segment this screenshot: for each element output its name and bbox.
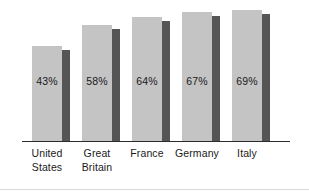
x-axis-line: [22, 141, 290, 142]
plot-area: 43% 58% 64% 67% 69%: [0, 0, 309, 143]
bar-value-label-0: 43%: [32, 75, 62, 87]
bar-shadow-0: [62, 50, 70, 142]
x-tick-label-4: Italy: [216, 147, 278, 161]
bar-shadow-4: [262, 14, 270, 142]
bar-value-label-3: 67%: [182, 75, 212, 87]
bar-value-label-1: 58%: [82, 75, 112, 87]
x-tick-label-1-line-1: Britain: [66, 161, 128, 175]
bar-shadow-2: [162, 21, 170, 142]
bar-value-label-4: 69%: [232, 75, 262, 87]
bar-shadow-3: [212, 16, 220, 142]
bar-face-0: [32, 46, 62, 142]
bar-value-label-2: 64%: [132, 75, 162, 87]
bar-chart: 43% 58% 64% 67% 69% United States Great: [0, 0, 309, 193]
x-tick-label-4-line-0: Italy: [216, 147, 278, 161]
bottom-divider: [0, 189, 309, 190]
bar-shadow-1: [112, 29, 120, 142]
